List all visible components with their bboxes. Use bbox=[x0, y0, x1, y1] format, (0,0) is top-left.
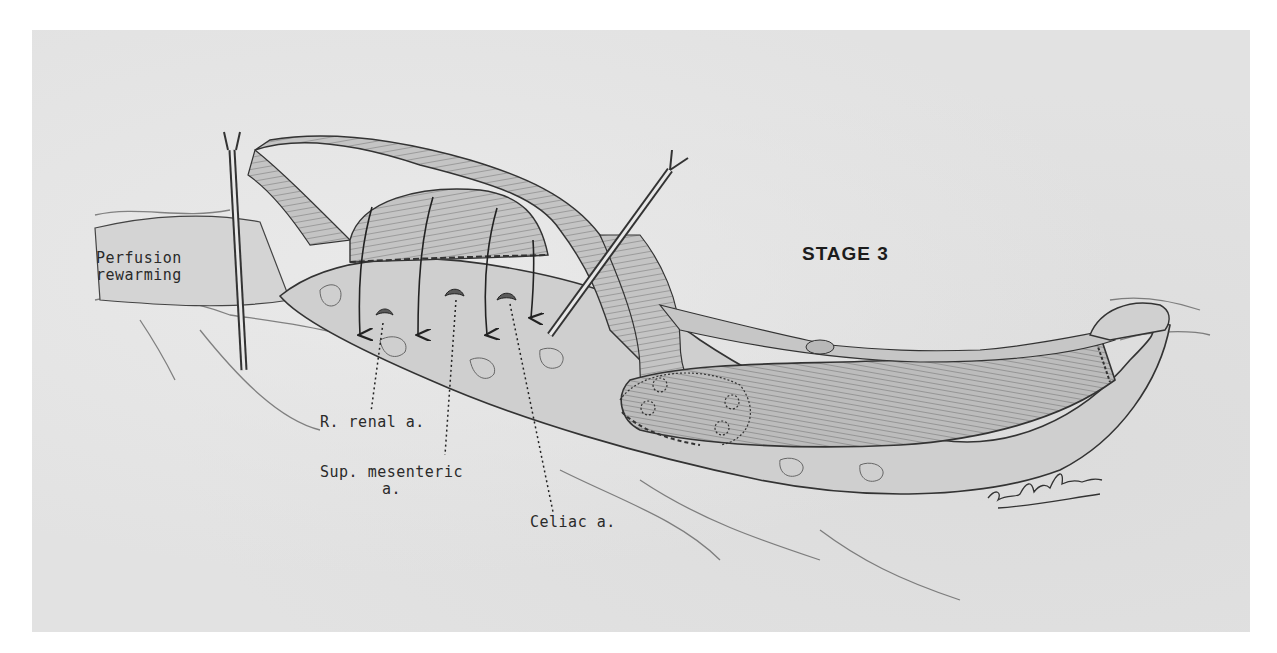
label-perfusion-line2: rewarming bbox=[96, 267, 182, 284]
label-renal-artery: R. renal a. bbox=[320, 413, 425, 431]
label-perfusion-rewarming: Perfusion rewarming bbox=[96, 250, 182, 284]
label-mesenteric-line1: Sup. mesenteric bbox=[320, 464, 463, 481]
surgical-illustration bbox=[0, 0, 1277, 653]
label-perfusion-line1: Perfusion bbox=[96, 250, 182, 267]
stage-title: STAGE 3 bbox=[802, 243, 889, 265]
label-mesenteric-line2: a. bbox=[320, 481, 463, 498]
graft-flap bbox=[350, 189, 548, 262]
vessel-bulge bbox=[806, 340, 834, 354]
distal-vessel bbox=[660, 305, 1115, 362]
label-superior-mesenteric-artery: Sup. mesenteric a. bbox=[320, 464, 463, 498]
label-celiac-artery: Celiac a. bbox=[530, 513, 616, 531]
